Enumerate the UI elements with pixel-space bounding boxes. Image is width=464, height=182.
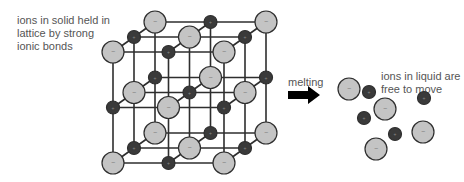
svg-text:−: − — [111, 159, 115, 166]
cation-icon: + — [218, 101, 231, 114]
svg-text:−: − — [208, 74, 212, 81]
svg-text:−: − — [187, 33, 191, 40]
svg-text:+: + — [209, 130, 212, 136]
anion-icon: − — [234, 82, 256, 104]
svg-text:+: + — [244, 34, 247, 40]
svg-text:−: − — [374, 145, 378, 152]
svg-text:−: − — [153, 129, 157, 136]
anion-icon: − — [158, 97, 180, 119]
svg-text:+: + — [394, 131, 397, 137]
svg-text:+: + — [244, 145, 247, 151]
cation-icon: + — [358, 112, 371, 125]
svg-text:−: − — [421, 128, 425, 135]
cation-icon: + — [239, 31, 252, 44]
cation-icon: + — [128, 142, 141, 155]
anion-icon: − — [200, 67, 222, 89]
svg-text:+: + — [223, 105, 226, 111]
cation-icon: + — [162, 157, 175, 170]
anion-icon: − — [102, 152, 124, 174]
svg-text:−: − — [132, 89, 136, 96]
anion-icon: − — [365, 138, 387, 160]
anion-icon: − — [255, 11, 277, 33]
liquid-ions: −+−+++−− — [338, 78, 434, 160]
svg-text:+: + — [112, 105, 115, 111]
svg-text:−: − — [111, 48, 115, 55]
anion-icon: − — [179, 137, 201, 159]
svg-text:−: − — [153, 18, 157, 25]
cation-icon: + — [204, 16, 217, 29]
cation-icon: + — [183, 86, 196, 99]
cation-icon: + — [418, 92, 431, 105]
cation-icon: + — [260, 71, 273, 84]
cation-icon: + — [363, 86, 376, 99]
svg-text:+: + — [133, 145, 136, 151]
svg-text:−: − — [166, 104, 170, 111]
anion-icon: − — [144, 122, 166, 144]
svg-text:+: + — [265, 75, 268, 81]
ionic-lattice-diagram: −+−+−+−+−+−+−+−+−+−+−+−+−+− −+−+++−− — [0, 0, 464, 182]
cation-icon: + — [239, 142, 252, 155]
anion-icon: − — [412, 121, 434, 143]
svg-text:+: + — [209, 19, 212, 25]
cation-icon: + — [389, 128, 402, 141]
svg-text:−: − — [222, 159, 226, 166]
svg-text:−: − — [187, 144, 191, 151]
svg-text:−: − — [222, 48, 226, 55]
svg-text:−: − — [264, 129, 268, 136]
svg-text:+: + — [133, 34, 136, 40]
svg-text:+: + — [423, 95, 426, 101]
anion-icon: − — [374, 98, 396, 120]
anion-icon: − — [123, 82, 145, 104]
svg-text:+: + — [167, 160, 170, 166]
cation-icon: + — [204, 127, 217, 140]
cation-icon: + — [128, 31, 141, 44]
anion-icon: − — [179, 26, 201, 48]
svg-text:+: + — [154, 75, 157, 81]
svg-text:−: − — [383, 105, 387, 112]
svg-text:+: + — [188, 90, 191, 96]
melting-arrow-icon — [288, 86, 320, 104]
svg-text:+: + — [167, 49, 170, 55]
anion-icon: − — [213, 152, 235, 174]
svg-text:−: − — [264, 18, 268, 25]
anion-icon: − — [213, 41, 235, 63]
svg-text:−: − — [243, 89, 247, 96]
cation-icon: + — [107, 101, 120, 114]
svg-text:+: + — [363, 115, 366, 121]
anion-icon: − — [144, 11, 166, 33]
anion-icon: − — [338, 78, 360, 100]
cation-icon: + — [149, 71, 162, 84]
anion-icon: − — [255, 122, 277, 144]
cation-icon: + — [162, 46, 175, 59]
anion-icon: − — [102, 41, 124, 63]
svg-text:+: + — [368, 89, 371, 95]
lattice-ions: −+−+−+−+−+−+−+−+−+−+−+−+−+− — [102, 11, 277, 174]
svg-text:−: − — [347, 85, 351, 92]
